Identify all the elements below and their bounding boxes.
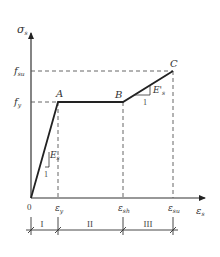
region-2-label: II — [87, 219, 93, 229]
stress-strain-curve — [31, 71, 173, 198]
stress-strain-diagram: σs εs 0 fsu fy A B C Es 1 E's 1 εy εsh ε… — [0, 0, 220, 257]
axes — [31, 33, 205, 198]
region-3-label: III — [144, 219, 153, 229]
point-c-label: C — [170, 58, 178, 69]
x-axis-label: εs — [196, 205, 204, 217]
region-dimension-line — [26, 217, 178, 235]
hardening-run-label: 1 — [143, 98, 147, 107]
ey-tick-label: εy — [55, 203, 64, 215]
esh-tick-label: εsh — [118, 203, 130, 214]
point-b-label: B — [114, 89, 122, 100]
hardening-modulus-label: E's — [152, 85, 165, 96]
reference-lines — [31, 71, 173, 198]
region-1-label: I — [41, 219, 44, 229]
elastic-slope-triangle — [45, 152, 49, 167]
origin-label: 0 — [27, 202, 32, 212]
esu-tick-label: εsu — [168, 203, 180, 214]
fy-label: fy — [13, 96, 22, 109]
elastic-run-label: 1 — [44, 170, 48, 179]
fsu-label: fsu — [13, 65, 25, 77]
point-a-label: A — [55, 88, 63, 99]
y-axis-label: σs — [17, 23, 28, 36]
